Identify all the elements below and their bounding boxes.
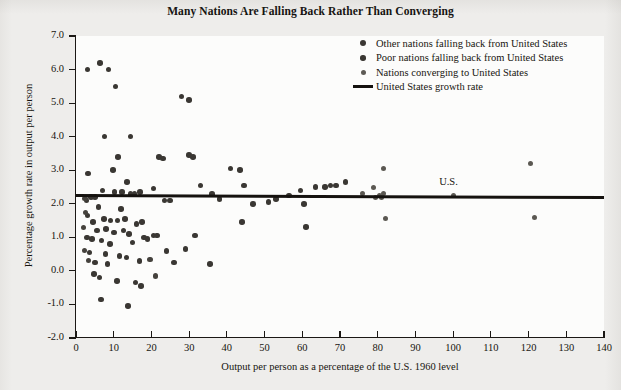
x-tick-label: 10 [94, 342, 134, 353]
x-tick-label: 40 [207, 342, 247, 353]
y-tick-mark [69, 170, 76, 171]
scatter-point [528, 161, 533, 166]
scatter-point [532, 215, 537, 220]
page-title: Many Nations Are Falling Back Rather Tha… [0, 5, 621, 17]
scatter-point [125, 303, 131, 309]
us-annotation-label: U.S. [439, 176, 458, 187]
x-tick-mark [151, 331, 152, 338]
scatter-point [81, 225, 86, 230]
x-tick-label: 110 [471, 342, 511, 353]
scatter-point [183, 246, 189, 252]
scatter-point [237, 167, 243, 173]
x-tick-mark [490, 331, 491, 338]
y-tick-mark [69, 304, 76, 305]
x-tick-label: 100 [433, 342, 473, 353]
x-tick-label: 30 [169, 342, 209, 353]
legend-swatch-dot [352, 40, 374, 46]
x-tick-mark [302, 331, 303, 338]
x-tick-mark [566, 331, 567, 338]
x-tick-mark [339, 331, 340, 338]
scatter-point [190, 154, 196, 160]
legend-dot-swatch [360, 55, 366, 61]
y-axis-line [75, 35, 76, 339]
x-tick-label: 140 [584, 342, 621, 353]
scatter-point [101, 216, 107, 222]
scatter-point [118, 206, 124, 212]
y-tick-mark [69, 237, 76, 238]
x-tick-mark [264, 331, 265, 338]
scatter-point [303, 224, 309, 230]
y-tick-mark [69, 270, 76, 271]
legend-item-label: United States growth rate [374, 81, 483, 92]
scatter-point [241, 183, 247, 189]
legend-item-label: Poor nations falling back from United St… [374, 52, 563, 63]
y-tick-label: 7.0 [22, 29, 64, 40]
y-tick-mark [69, 103, 76, 104]
scatter-point [117, 253, 123, 259]
scatter-point [313, 184, 319, 190]
scatter-point [124, 179, 130, 185]
scatter-point [147, 257, 152, 262]
scatter-point [126, 231, 132, 237]
scatter-point [90, 219, 96, 225]
x-tick-mark [226, 331, 227, 338]
x-tick-label: 80 [358, 342, 398, 353]
scatter-point [322, 184, 328, 190]
x-tick-mark [528, 331, 529, 338]
scatter-point [103, 251, 109, 257]
scatter-point [333, 183, 339, 189]
y-tick-mark [69, 136, 76, 137]
scatter-point [171, 260, 177, 266]
scatter-point [137, 258, 143, 264]
scatter-point [92, 260, 98, 266]
x-tick-label: 20 [131, 342, 171, 353]
scatter-point [160, 156, 166, 162]
scatter-point [122, 216, 128, 222]
scatter-point [266, 199, 272, 205]
scatter-point [192, 233, 198, 239]
x-tick-label: 90 [395, 342, 435, 353]
chart-legend: Other nations falling back from United S… [352, 36, 567, 94]
legend-item-label: Nations converging to United States [374, 67, 528, 78]
legend-dot-swatch [360, 40, 366, 46]
y-axis-label: Percentage growth rate in output per per… [23, 61, 34, 291]
scatter-point [103, 226, 109, 232]
scatter-point [115, 154, 121, 160]
y-tick-label: -1.0 [22, 297, 64, 308]
scatter-point [239, 219, 245, 225]
legend-swatch-dot [352, 55, 374, 61]
scatter-point [207, 261, 213, 267]
scatter-point [138, 283, 144, 289]
scatter-point [97, 60, 103, 66]
y-tick-mark [69, 35, 76, 36]
scatter-point [381, 166, 386, 171]
scatter-point [111, 230, 117, 236]
legend-item-label: Other nations falling back from United S… [374, 38, 567, 49]
x-tick-label: 0 [56, 342, 96, 353]
legend-item: United States growth rate [352, 80, 567, 95]
x-tick-label: 70 [320, 342, 360, 353]
scatter-point [89, 236, 95, 242]
x-tick-label: 130 [546, 342, 586, 353]
scatter-point [139, 219, 145, 225]
x-tick-mark [189, 331, 190, 338]
x-tick-mark [377, 331, 378, 338]
legend-item: Other nations falling back from United S… [352, 36, 567, 51]
legend-line-swatch [353, 85, 373, 88]
scatter-point [301, 201, 307, 207]
scatter-point [110, 167, 116, 173]
y-tick-mark [69, 203, 76, 204]
scatter-point [107, 241, 113, 247]
x-tick-mark [603, 331, 604, 338]
legend-item: Nations converging to United States [352, 65, 567, 80]
x-tick-mark [453, 331, 454, 338]
y-tick-mark [69, 69, 76, 70]
legend-swatch-line [352, 85, 374, 88]
scatter-point [186, 97, 192, 103]
legend-item: Poor nations falling back from United St… [352, 51, 567, 66]
scatter-point [153, 273, 158, 278]
scatter-point [114, 278, 120, 284]
x-tick-label: 50 [245, 342, 285, 353]
legend-swatch-dot [352, 70, 374, 75]
chart-figure: Many Nations Are Falling Back Rather Tha… [0, 0, 621, 390]
